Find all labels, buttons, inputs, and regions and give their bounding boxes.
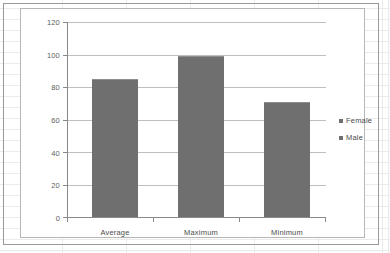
y-axis-label-100: 100: [47, 50, 60, 59]
legend-swatch-icon-female: [339, 119, 343, 123]
x-tick-1: [153, 218, 154, 222]
y-tick-100: [63, 55, 67, 56]
x-axis-label-average: Average: [100, 228, 129, 237]
legend-item-male[interactable]: Male: [339, 133, 372, 142]
y-axis-label-60: 60: [51, 116, 60, 125]
y-tick-60: [63, 120, 67, 121]
bar-maximum[interactable]: [178, 56, 224, 217]
y-tick-80: [63, 87, 67, 88]
plot-area: 120 100 80 60 40 20 0 Average Maximum Mi…: [67, 22, 326, 218]
y-axis-line: [67, 22, 68, 218]
x-tick-2: [239, 218, 240, 222]
bar-average[interactable]: [92, 79, 138, 217]
y-axis-label-80: 80: [51, 83, 60, 92]
legend-swatch-icon-male: [339, 136, 343, 140]
x-axis-label-minimum: Minimum: [271, 228, 303, 237]
y-axis-label-120: 120: [47, 18, 60, 27]
x-axis-label-maximum: Maximum: [184, 228, 218, 237]
y-axis-label-20: 20: [51, 181, 60, 190]
x-axis-line: [67, 217, 326, 218]
legend-item-female[interactable]: Female: [339, 116, 372, 125]
legend-label-female: Female: [346, 116, 372, 125]
y-tick-40: [63, 152, 67, 153]
x-tick-end: [325, 218, 326, 222]
legend-label-male: Male: [346, 133, 363, 142]
bar-minimum[interactable]: [264, 102, 310, 217]
gridline-120: [67, 22, 326, 23]
y-tick-20: [63, 185, 67, 186]
chart-legend[interactable]: Female Male: [339, 116, 372, 150]
bar-chart-object[interactable]: 120 100 80 60 40 20 0 Average Maximum Mi…: [20, 8, 365, 238]
y-tick-120: [63, 22, 67, 23]
y-axis-label-40: 40: [51, 148, 60, 157]
y-axis-label-0: 0: [56, 213, 60, 222]
x-tick-start: [67, 218, 68, 222]
